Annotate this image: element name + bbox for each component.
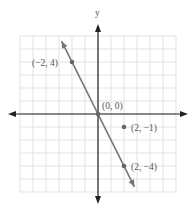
data-point (122, 125, 127, 130)
axes: y (8, 8, 188, 204)
y-axis-up-arrow-icon (95, 24, 101, 32)
y-axis-label: y (95, 8, 100, 18)
y-axis-down-arrow-icon (95, 196, 101, 204)
data-point (70, 60, 75, 65)
x-axis-right-arrow-icon (180, 111, 188, 117)
data-point (122, 164, 127, 169)
data-point (96, 112, 101, 117)
point-label: (2, −1) (131, 123, 157, 134)
x-axis-left-arrow-icon (8, 111, 16, 117)
coordinate-plane: y (−2, 4)(0, 0)(2, −1)(2, −4) (0, 0, 190, 214)
point-label: (0, 0) (102, 101, 123, 112)
point-label: (−2, 4) (32, 58, 58, 69)
point-label: (2, −4) (131, 162, 157, 173)
